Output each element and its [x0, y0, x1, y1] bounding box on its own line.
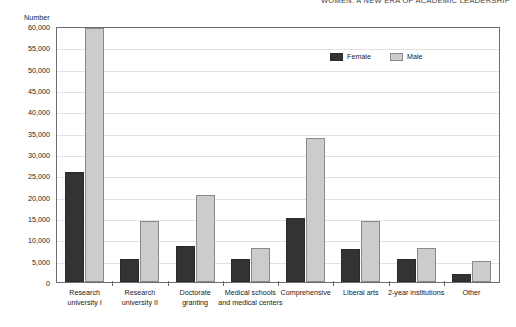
- bar-group: [278, 28, 333, 282]
- category-separator-tick: [278, 281, 279, 286]
- bar-group: [333, 28, 388, 282]
- y-tick-label: 5,000: [32, 257, 50, 266]
- y-tick-label: 40,000: [28, 108, 50, 117]
- category-separator-tick: [112, 281, 113, 286]
- y-tick-label: 15,000: [28, 215, 50, 224]
- category-separator-tick: [444, 281, 445, 286]
- bar-group: [223, 28, 278, 282]
- bar-female: [231, 259, 250, 282]
- category-separator-tick: [389, 281, 390, 286]
- bars-layer: [57, 28, 499, 282]
- bar-group: [389, 28, 444, 282]
- y-tick-label: 20,000: [28, 193, 50, 202]
- running-head: WOMEN: A NEW ERA OF ACADEMIC LEADERSHIP: [0, 0, 516, 5]
- x-axis-tick-labels: Researchuniversity IResearchuniversity I…: [56, 288, 500, 322]
- legend-swatch-icon: [390, 53, 403, 61]
- y-axis-tick-labels: 60,00055,00050,00045,00040,00035,00030,0…: [0, 27, 54, 283]
- legend-item-male: Male: [390, 52, 423, 61]
- y-tick-label: 55,000: [28, 44, 50, 53]
- legend-swatch-icon: [330, 53, 343, 61]
- category-separator-tick: [168, 281, 169, 286]
- bar-male: [417, 248, 436, 282]
- bar-female: [65, 172, 84, 282]
- bar-group: [168, 28, 223, 282]
- y-tick-label: 30,000: [28, 151, 50, 160]
- y-tick-label: 0: [46, 279, 50, 288]
- legend-label: Female: [347, 52, 371, 61]
- legend-item-female: Female: [330, 52, 371, 61]
- bar-group: [57, 28, 112, 282]
- bar-male: [85, 28, 104, 282]
- y-tick-label: 60,000: [28, 23, 50, 32]
- bar-group: [112, 28, 167, 282]
- y-tick-label: 35,000: [28, 129, 50, 138]
- category-separator-tick: [223, 281, 224, 286]
- y-tick-label: 50,000: [28, 65, 50, 74]
- y-tick-label: 25,000: [28, 172, 50, 181]
- x-tick-label: Other: [427, 288, 516, 298]
- chart-legend: FemaleMale: [330, 52, 423, 61]
- bar-female: [452, 274, 471, 282]
- y-axis-caption: Number: [24, 13, 50, 22]
- bar-male: [251, 248, 270, 282]
- bar-female: [120, 259, 139, 282]
- bar-female: [176, 246, 195, 282]
- y-tick-label: 10,000: [28, 236, 50, 245]
- bar-male: [472, 261, 491, 282]
- bar-group: [444, 28, 499, 282]
- y-tick-label: 45,000: [28, 87, 50, 96]
- bar-male: [140, 221, 159, 282]
- bar-male: [196, 195, 215, 282]
- category-separator-tick: [333, 281, 334, 286]
- bar-female: [397, 259, 416, 282]
- bar-female: [286, 218, 305, 282]
- bar-female: [341, 249, 360, 282]
- legend-label: Male: [407, 52, 423, 61]
- bar-male: [361, 221, 380, 282]
- bar-male: [306, 138, 325, 282]
